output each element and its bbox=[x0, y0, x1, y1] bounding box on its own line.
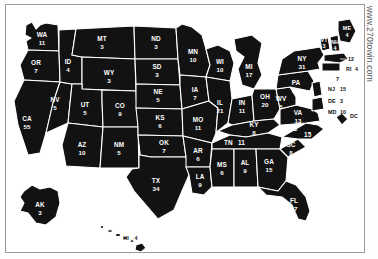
label-votes-mn: 10 bbox=[189, 56, 197, 63]
map-canvas: WA 11 OR 7 CA 55 NV 5 ID 4 MT 3 WY 3 bbox=[6, 5, 364, 252]
label-votes-ga: 15 bbox=[265, 166, 273, 173]
label-votes-ny: 31 bbox=[298, 63, 306, 70]
label-votes-tn: 11 bbox=[238, 139, 245, 146]
label-votes-nd: 3 bbox=[154, 43, 158, 50]
watermark-text: www.270towin.com bbox=[364, 6, 376, 110]
label-state-ak: AK bbox=[35, 201, 45, 208]
label-votes-wi: 10 bbox=[216, 66, 224, 73]
label-state-al: AL bbox=[241, 159, 250, 166]
state-shape-ct-ri[interactable] bbox=[322, 63, 340, 71]
label-votes-vt: 3 bbox=[322, 43, 325, 49]
label-votes-md: 10 bbox=[340, 109, 346, 115]
label-votes-va: 13 bbox=[294, 117, 302, 124]
label-state-wy: WY bbox=[104, 69, 115, 76]
label-votes-ma: 12 bbox=[348, 56, 354, 62]
label-state-wa: WA bbox=[37, 31, 48, 38]
label-votes-wv: 5 bbox=[279, 103, 283, 110]
label-votes-ar: 6 bbox=[196, 155, 200, 162]
label-state-va: VA bbox=[294, 109, 303, 116]
label-votes-co: 9 bbox=[118, 110, 122, 117]
label-votes-al: 9 bbox=[243, 167, 247, 174]
label-votes-de: 3 bbox=[340, 98, 343, 104]
label-state-la: LA bbox=[196, 173, 205, 180]
label-state-pa: PA bbox=[292, 79, 301, 86]
label-votes-oh: 20 bbox=[261, 101, 269, 108]
label-state-sc: SC bbox=[286, 141, 295, 148]
label-votes-id: 4 bbox=[66, 66, 70, 73]
label-votes-hi: 4 bbox=[134, 235, 137, 241]
label-votes-ms: 6 bbox=[220, 169, 224, 176]
label-votes-nm: 5 bbox=[117, 149, 121, 156]
label-state-ok: OK bbox=[159, 139, 169, 146]
label-votes-nc: 15 bbox=[304, 131, 312, 138]
label-votes-sc: 8 bbox=[289, 149, 293, 156]
state-shape-or[interactable] bbox=[20, 50, 60, 82]
label-votes-ri: 4 bbox=[355, 66, 358, 72]
label-state-md: MD bbox=[328, 109, 337, 115]
label-votes-wy: 3 bbox=[107, 77, 111, 84]
label-state-hi: HI bbox=[123, 235, 129, 241]
label-state-ca: CA bbox=[22, 115, 32, 122]
label-votes-la: 9 bbox=[198, 181, 202, 188]
label-state-or: OR bbox=[31, 59, 41, 66]
state-shape-nj[interactable] bbox=[312, 81, 322, 97]
label-state-ks: KS bbox=[155, 114, 165, 121]
label-votes-ia: 7 bbox=[193, 94, 197, 101]
label-votes-mi: 17 bbox=[245, 71, 253, 78]
label-votes-ak: 3 bbox=[38, 209, 42, 216]
label-state-ny: NY bbox=[297, 55, 307, 62]
label-state-nv: NV bbox=[50, 96, 60, 103]
label-state-ar: AR bbox=[193, 147, 203, 154]
label-votes-wa: 11 bbox=[39, 39, 46, 46]
label-votes-ks: 6 bbox=[158, 122, 162, 129]
us-electoral-map-svg: WA 11 OR 7 CA 55 NV 5 ID 4 MT 3 WY 3 bbox=[6, 5, 364, 252]
label-votes-ky: 8 bbox=[252, 129, 256, 136]
label-votes-in: 11 bbox=[239, 107, 246, 114]
label-votes-nh: 4 bbox=[333, 45, 336, 51]
label-state-nd: ND bbox=[151, 35, 161, 42]
label-votes-tx: 34 bbox=[152, 185, 160, 192]
label-votes-fl: 27 bbox=[290, 205, 298, 212]
label-state-ri: RI bbox=[346, 66, 352, 72]
label-state-wi: WI bbox=[216, 58, 224, 65]
label-votes-or: 7 bbox=[34, 67, 38, 74]
label-state-nm: NM bbox=[114, 141, 124, 148]
label-votes-mt: 3 bbox=[100, 43, 104, 50]
label-state-me: ME bbox=[343, 25, 352, 31]
label-votes-ok: 7 bbox=[162, 147, 166, 154]
label-votes-az: 10 bbox=[78, 149, 86, 156]
label-votes-ct: 7 bbox=[336, 76, 339, 82]
label-state-ne: NE bbox=[153, 88, 163, 95]
label-state-dc: DC bbox=[350, 113, 358, 119]
label-state-sd: SD bbox=[152, 63, 161, 70]
label-state-nj: NJ bbox=[328, 86, 335, 92]
label-votes-il: 21 bbox=[216, 107, 224, 114]
label-votes-nj: 15 bbox=[340, 86, 346, 92]
state-shape-de-md[interactable] bbox=[312, 97, 324, 111]
label-state-de: DE bbox=[328, 98, 336, 104]
label-state-co: CO bbox=[115, 102, 125, 109]
label-state-mi: MI bbox=[245, 63, 252, 70]
state-shape-ma[interactable] bbox=[324, 53, 348, 63]
label-votes-nv: 5 bbox=[53, 104, 57, 111]
label-state-tn: TN bbox=[224, 139, 233, 146]
electoral-map-page: www.270towin.com bbox=[0, 0, 378, 259]
label-state-mn: MN bbox=[188, 48, 198, 55]
label-votes-ca: 55 bbox=[23, 123, 31, 130]
label-state-ut: UT bbox=[81, 101, 90, 108]
label-state-ms: MS bbox=[217, 161, 227, 168]
label-state-il: IL bbox=[217, 99, 223, 106]
label-state-nc: NC bbox=[288, 125, 298, 132]
label-votes-pa: 21 bbox=[292, 87, 300, 94]
label-state-oh: OH bbox=[260, 93, 270, 100]
label-votes-sd: 3 bbox=[155, 71, 159, 78]
label-votes-ne: 5 bbox=[156, 96, 160, 103]
label-state-az: AZ bbox=[78, 141, 87, 148]
label-state-mt: MT bbox=[97, 35, 106, 42]
label-state-wv: WV bbox=[276, 95, 287, 102]
label-state-fl: FL bbox=[290, 197, 298, 204]
label-state-id: ID bbox=[65, 58, 72, 65]
label-votes-ut: 5 bbox=[83, 109, 87, 116]
label-votes-me: 4 bbox=[345, 32, 348, 38]
label-state-ia: IA bbox=[192, 86, 199, 93]
